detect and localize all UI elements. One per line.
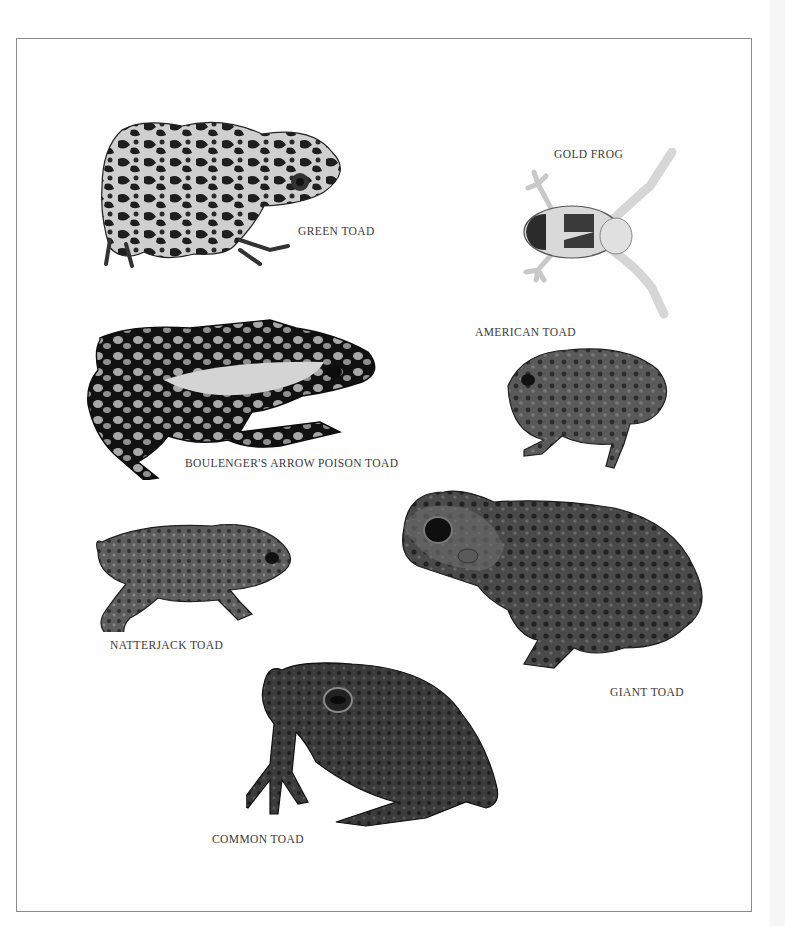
american-toad-illustration: [500, 346, 668, 474]
green-toad-label: GREEN TOAD: [298, 225, 375, 237]
common-toad-label: COMMON TOAD: [212, 833, 304, 845]
giant-toad-label: GIANT TOAD: [610, 686, 684, 698]
natterjack-toad-illustration: [66, 518, 294, 632]
natterjack-toad-label: NATTERJACK TOAD: [110, 639, 223, 651]
boulengers-arrow-poison-toad-illustration: [72, 318, 378, 480]
giant-toad-illustration: [398, 488, 714, 686]
american-toad-label: AMERICAN TOAD: [475, 326, 576, 338]
page-edge-strip: [770, 0, 785, 926]
common-toad-illustration: [246, 660, 508, 852]
gold-frog-illustration: [512, 148, 684, 320]
green-toad-illustration: [90, 120, 348, 270]
boulengers-arrow-poison-toad-label: BOULENGER'S ARROW POISON TOAD: [185, 457, 398, 469]
